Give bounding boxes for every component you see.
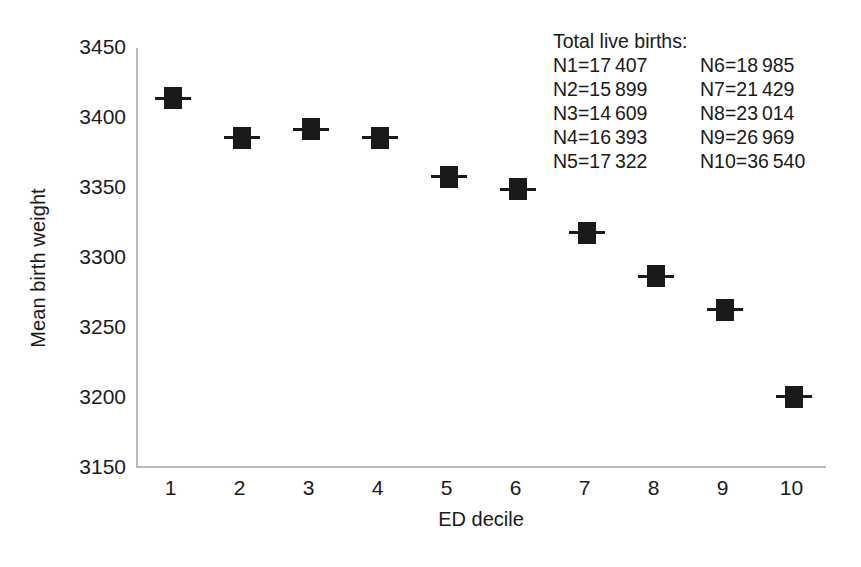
square-marker-icon (371, 127, 389, 149)
square-marker-icon (509, 178, 527, 200)
annotation-count-right: N8=23 014 (700, 101, 794, 125)
y-tick-label: 3350 (52, 175, 126, 199)
square-marker-icon (233, 127, 251, 149)
y-tick-label: 3450 (52, 35, 126, 59)
annotation-count-right: N7=21 429 (700, 77, 794, 101)
annotation-count-left: N2=15 899 (553, 77, 647, 101)
x-tick-label: 5 (417, 476, 477, 500)
x-tick-label: 6 (486, 476, 546, 500)
annotation-row: N5=17 322N10=36 540 (553, 149, 687, 173)
square-marker-icon (785, 386, 803, 408)
y-tick-label: 3400 (52, 105, 126, 129)
annotation-count-left: N4=16 393 (553, 125, 647, 149)
x-tick-label: 4 (348, 476, 408, 500)
annotation-count-left: N3=14 609 (553, 101, 647, 125)
y-tick-label: 3300 (52, 245, 126, 269)
annotation-count-right: N6=18 985 (700, 53, 794, 77)
x-tick-label: 9 (693, 476, 753, 500)
x-tick-label: 1 (141, 476, 201, 500)
square-marker-icon (716, 299, 734, 321)
annotation-title: Total live births: (553, 29, 687, 53)
birth-weight-by-ed-decile-chart: Mean birth weight 3450340033503300325032… (0, 0, 861, 567)
square-marker-icon (302, 118, 320, 140)
square-marker-icon (647, 265, 665, 287)
annotation-count-left: N1=17 407 (553, 53, 647, 77)
x-tick-label: 7 (555, 476, 615, 500)
y-tick-label: 3250 (52, 315, 126, 339)
y-tick-label: 3150 (52, 455, 126, 479)
x-tick-label: 3 (279, 476, 339, 500)
y-axis-label: Mean birth weight (18, 58, 58, 478)
total-live-births-annotation: Total live births: N1=17 407N6=18 985N2=… (553, 29, 687, 173)
annotation-count-left: N5=17 322 (553, 149, 647, 173)
annotation-row: N4=16 393N9=26 969 (553, 125, 687, 149)
annotation-row: N3=14 609N8=23 014 (553, 101, 687, 125)
x-tick-label: 8 (624, 476, 684, 500)
x-axis-label: ED decile (136, 508, 826, 531)
square-marker-icon (164, 87, 182, 109)
x-tick-label: 2 (210, 476, 270, 500)
y-tick-label: 3200 (52, 385, 126, 409)
square-marker-icon (440, 166, 458, 188)
annotation-row: N1=17 407N6=18 985 (553, 53, 687, 77)
annotation-count-right: N10=36 540 (700, 149, 805, 173)
x-tick-label: 10 (762, 476, 822, 500)
annotation-row: N2=15 899N7=21 429 (553, 77, 687, 101)
square-marker-icon (578, 222, 596, 244)
annotation-rows: N1=17 407N6=18 985N2=15 899N7=21 429N3=1… (553, 53, 687, 173)
annotation-count-right: N9=26 969 (700, 125, 794, 149)
